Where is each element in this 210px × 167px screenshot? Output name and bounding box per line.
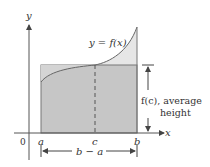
b-label: b xyxy=(134,136,140,147)
curve-label: y = f(x) xyxy=(88,37,127,48)
y-axis-label: y xyxy=(25,10,32,21)
width-annotation: b − a xyxy=(76,146,103,157)
mean-value-diagram: y x 0 a c b y = f(x) f(c), average heigh… xyxy=(0,0,210,167)
a-label: a xyxy=(38,136,44,147)
average-height-rectangle xyxy=(41,65,137,133)
height-annotation-line2: height xyxy=(160,107,191,118)
height-annotation-line1: f(c), average xyxy=(141,95,202,106)
origin-label: 0 xyxy=(20,137,26,147)
x-axis-label: x xyxy=(165,127,171,138)
